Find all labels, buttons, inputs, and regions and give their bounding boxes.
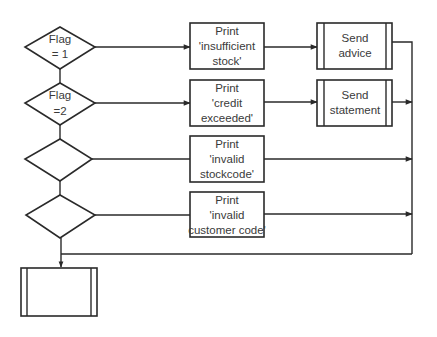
subroutine-1-line1: Send: [342, 32, 369, 44]
decision-3: [25, 139, 92, 181]
decision-flag-1-line2: = 1: [52, 48, 68, 60]
subroutine-1-line2: advice: [338, 47, 371, 59]
line-s1-merge: [392, 42, 412, 254]
process-4-line1: Print: [215, 194, 239, 206]
process-2-line3: exceeded': [201, 112, 253, 124]
subroutine-send-advice: Send advice: [317, 23, 392, 69]
process-2-line1: Print: [215, 82, 239, 94]
process-invalid-customer-code: Print 'invalid customer code': [188, 192, 266, 237]
subroutine-2-line2: statement: [330, 104, 381, 116]
subroutine-2-line1: Send: [342, 89, 369, 101]
decision-flag-1: Flag = 1: [25, 27, 95, 69]
process-1-line2: 'insufficient: [199, 40, 256, 52]
process-3-line2: 'invalid: [210, 153, 245, 165]
flowchart: Flag = 1 Flag =2 Print 'insufficient sto…: [0, 0, 437, 337]
process-3-line3: stockcode': [200, 168, 254, 180]
decision-flag-2-line2: =2: [53, 105, 66, 117]
decision-flag-1-line1: Flag: [49, 33, 71, 45]
process-1-line1: Print: [215, 25, 239, 37]
process-credit-exceeded: Print 'credit exceeded': [190, 80, 264, 126]
process-2-line2: 'credit: [212, 97, 243, 109]
decision-flag-2: Flag =2: [25, 83, 95, 125]
process-4-line3: customer code': [188, 224, 266, 236]
process-invalid-stockcode: Print 'invalid stockcode': [190, 136, 264, 182]
subroutine-send-statement: Send statement: [317, 80, 392, 126]
process-1-line3: stock': [212, 55, 241, 67]
process-insufficient-stock: Print 'insufficient stock': [190, 23, 264, 69]
process-3-line1: Print: [215, 138, 239, 150]
decision-flag-2-line1: Flag: [49, 89, 71, 101]
process-4-line2: 'invalid: [210, 209, 245, 221]
subroutine-end: [21, 268, 97, 316]
decision-4: [26, 195, 95, 238]
